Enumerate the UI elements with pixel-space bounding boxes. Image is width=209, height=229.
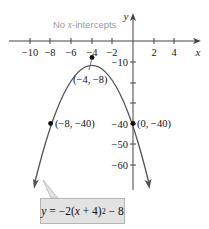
y-tick-label: −60 bbox=[112, 160, 128, 171]
vertex-leader-line bbox=[89, 58, 92, 70]
vertex-label: (−4, −8) bbox=[73, 74, 108, 86]
x-tick-label: −6 bbox=[65, 47, 76, 58]
point-neg8-neg40 bbox=[48, 121, 53, 126]
x-tick-label: 2 bbox=[151, 47, 156, 58]
x-axis-label: x bbox=[195, 46, 201, 58]
y-axis-label: y bbox=[123, 10, 129, 22]
eq-mid: = −2( bbox=[46, 205, 74, 217]
eq-plus: + 4) bbox=[80, 205, 102, 217]
left-point-label: (−8, −40) bbox=[55, 118, 95, 130]
y-tick-label: −40 bbox=[112, 119, 128, 130]
x-tick-label: 4 bbox=[171, 47, 177, 58]
parabola-graph: −10 −8 −6 −4 −2 2 4 −10 −40 −50 −60 x y … bbox=[0, 0, 209, 229]
eq-end: − 8 bbox=[106, 205, 124, 217]
x-tick-label: −10 bbox=[22, 47, 38, 58]
y-tick-label: −50 bbox=[112, 139, 128, 150]
equation-callout: y = −2(x + 4)2 − 8 bbox=[40, 198, 125, 224]
x-tick-label: −8 bbox=[44, 47, 55, 58]
callout-pointer bbox=[43, 180, 58, 198]
no-x-intercepts-note: No x-intercepts bbox=[53, 19, 117, 30]
y-tick-label: −10 bbox=[112, 57, 128, 68]
y-intercept-label: (0, −40) bbox=[137, 118, 171, 130]
y-intercept-point bbox=[131, 121, 136, 126]
